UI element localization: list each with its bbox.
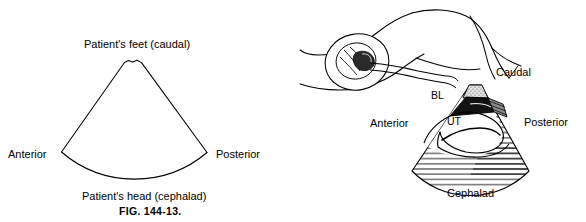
- figure-artwork: [0, 0, 586, 222]
- figure-144-13: Patient's feet (caudal) Anterior Posteri…: [0, 0, 586, 222]
- left-panel-caudal-label: Patient's feet (caudal): [84, 38, 190, 50]
- right-panel-posterior-label: Posterior: [524, 116, 568, 128]
- right-panel-cephalad-label: Cephalad: [447, 187, 494, 199]
- probe-footprint-icon: [463, 85, 488, 98]
- transvaginal-probe-icon: [320, 28, 458, 96]
- left-panel-cephalad-label: Patient's head (cephalad): [82, 190, 206, 202]
- figure-caption: FIG. 144-13.: [119, 205, 182, 217]
- ultrasound-sector-icon: [404, 85, 540, 196]
- right-panel-anterior-label: Anterior: [370, 117, 409, 129]
- uterus-label: UT: [447, 115, 461, 127]
- left-sector-outline: [62, 60, 208, 179]
- bladder-label: BL: [431, 89, 444, 101]
- right-panel-caudal-label: Caudal: [496, 66, 531, 78]
- left-panel-anterior-label: Anterior: [8, 148, 47, 160]
- left-panel-posterior-label: Posterior: [216, 148, 260, 160]
